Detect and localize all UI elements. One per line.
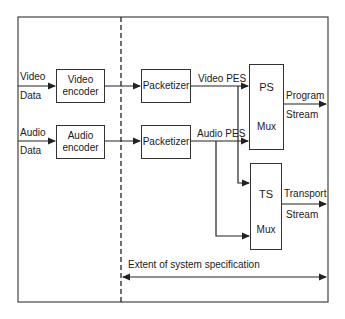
ts-mux-title: TS	[251, 188, 281, 200]
audio-packetizer-box: Packetizer	[141, 125, 191, 159]
audio-data-label-line1: Audio	[20, 127, 46, 139]
video-encoder-box: Video encoder	[56, 69, 105, 103]
program-stream-line2: Stream	[286, 109, 318, 121]
audio-encoder-box: Audio encoder	[56, 125, 105, 159]
video-data-label-line2: Data	[20, 90, 41, 102]
video-packetizer-label: Packetizer	[143, 80, 190, 92]
extent-label: Extent of system specification	[128, 259, 260, 271]
video-encoder-line1: Video	[68, 74, 93, 86]
audio-packetizer-label: Packetizer	[143, 136, 190, 148]
video-data-label-line1: Video	[20, 71, 45, 83]
transport-stream-line2: Stream	[286, 209, 318, 221]
ps-mux-title: PS	[250, 81, 283, 93]
audio-pes-label: Audio PES	[197, 128, 245, 140]
transport-stream-line1: Transport	[284, 188, 326, 200]
audio-encoder-line1: Audio	[68, 130, 94, 142]
audio-encoder-line2: encoder	[62, 142, 98, 154]
program-stream-line1: Program	[286, 90, 324, 102]
ps-mux-sub: Mux	[250, 121, 283, 133]
video-pes-label: Video PES	[198, 73, 246, 85]
video-packetizer-box: Packetizer	[141, 69, 191, 103]
diagram-wires	[0, 0, 345, 319]
ps-mux-box: PS Mux	[249, 64, 284, 150]
audio-data-label-line2: Data	[20, 145, 41, 157]
ts-mux-box: TS Mux	[250, 163, 282, 250]
ts-mux-sub: Mux	[251, 224, 281, 236]
video-encoder-line2: encoder	[62, 86, 98, 98]
